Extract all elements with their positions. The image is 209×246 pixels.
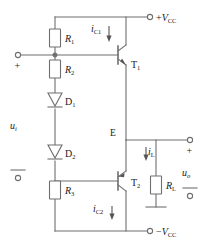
resistor-rl — [151, 176, 162, 194]
diode-d1-label: D1 — [65, 96, 75, 108]
node-label-emitter: E — [110, 128, 116, 138]
junction-dot-input — [53, 53, 57, 57]
resistor-rl-label: RL — [165, 180, 176, 192]
resistor-r3 — [50, 181, 61, 199]
diode-d1 — [48, 93, 62, 107]
diode-d2 — [48, 145, 62, 159]
current-label-il: iL — [148, 146, 155, 158]
current-arrow-ic1 — [106, 26, 111, 42]
terminal-vcc-positive[interactable] — [147, 14, 152, 19]
terminal-input-negative[interactable] — [15, 175, 20, 180]
label-uo: uo — [182, 167, 191, 179]
input-plus-sign: + — [15, 60, 21, 71]
label-vcc-positive: +VCC — [156, 12, 176, 24]
terminal-output-positive[interactable] — [187, 137, 192, 142]
current-label-ic1: iC1 — [91, 23, 101, 35]
label-vcc-negative: −VCC — [156, 226, 176, 238]
output-rail — [126, 140, 188, 207]
resistor-r2-label: R2 — [64, 64, 74, 76]
current-arrow-ic2 — [109, 206, 114, 220]
terminal-input-positive[interactable] — [15, 52, 20, 57]
current-label-ic2: iC2 — [93, 203, 103, 215]
terminal-output-negative[interactable] — [187, 193, 192, 198]
circuit-diagram: R1 R2 D1 D2 R3 T1 T2 — [0, 0, 209, 246]
label-ui: ui — [10, 120, 17, 132]
top-supply-rail — [55, 17, 150, 29]
transistor-t1 — [118, 45, 126, 65]
resistor-r2 — [50, 60, 61, 78]
resistor-r3-label: R3 — [64, 185, 74, 197]
output-plus-sign: + — [187, 145, 193, 156]
transistor-t2-label: T2 — [131, 177, 140, 189]
transistor-t1-label: T1 — [131, 59, 140, 71]
terminal-vcc-negative[interactable] — [147, 228, 152, 233]
transistor-t2 — [118, 171, 126, 191]
resistor-r1 — [50, 29, 61, 47]
diode-d2-label: D2 — [65, 148, 75, 160]
resistor-r1-label: R1 — [64, 33, 74, 45]
